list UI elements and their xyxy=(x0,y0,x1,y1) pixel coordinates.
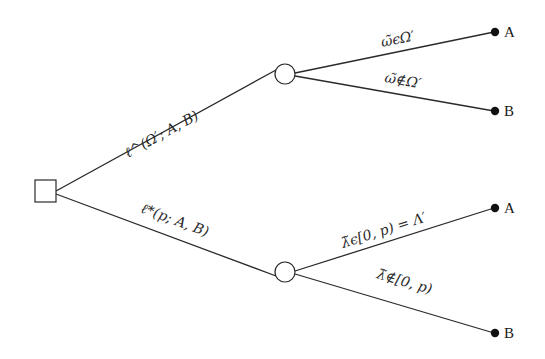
terminal-dot-upper-B xyxy=(491,107,499,115)
terminal-label-upper-A: A xyxy=(504,24,515,40)
terminal-dot-lower-B xyxy=(491,329,499,337)
terminal-dot-lower-A xyxy=(491,204,499,212)
branch-label-upper: ℓ^(Ω′; A, B) xyxy=(122,107,201,160)
terminal-label-lower-A: A xyxy=(504,200,515,216)
chance-node-upper xyxy=(275,64,295,84)
decision-node-square xyxy=(35,180,56,202)
edge-root-to-lower xyxy=(56,194,276,276)
chance-node-lower xyxy=(275,262,295,282)
terminal-label-lower-B: B xyxy=(504,325,514,341)
decision-tree-diagram: A B A B ℓ^(Ω′; A, B) ℓ*(p; A, B) ω̃ϵΩ′ ω… xyxy=(0,0,545,359)
outcome-label-lower-B: λ̃∉[0, p) xyxy=(374,265,434,297)
branch-label-lower: ℓ*(p; A, B) xyxy=(139,200,211,240)
terminal-dot-upper-A xyxy=(491,28,499,36)
outcome-label-upper-B: ω̃∉Ω′ xyxy=(383,69,423,91)
outcome-label-upper-A: ω̃ϵΩ′ xyxy=(379,27,416,50)
outcome-label-lower-A: λ̃ϵ[0, p) = Λ′ xyxy=(338,209,429,252)
terminal-label-upper-B: B xyxy=(504,103,514,119)
